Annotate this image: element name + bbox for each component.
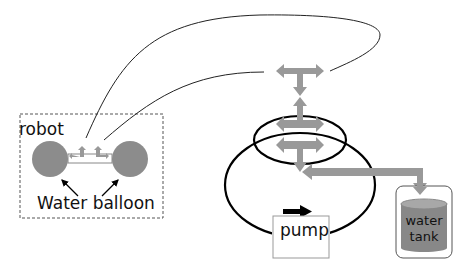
- robot-label: robot: [19, 119, 64, 139]
- wire-inner: [104, 72, 264, 140]
- robot-valve-icons: [69, 146, 109, 159]
- valve-assembly: [276, 64, 427, 192]
- tank-label-line1: water: [398, 213, 450, 229]
- water-balloon-left: [32, 141, 68, 177]
- tank-label-line2: tank: [398, 229, 450, 245]
- wire-outer: [86, 15, 380, 138]
- water-balloon-label: Water balloon: [37, 193, 155, 213]
- pump-label: pump: [280, 220, 329, 240]
- water-balloon-right: [112, 141, 148, 177]
- water-tank-label: water tank: [398, 213, 450, 245]
